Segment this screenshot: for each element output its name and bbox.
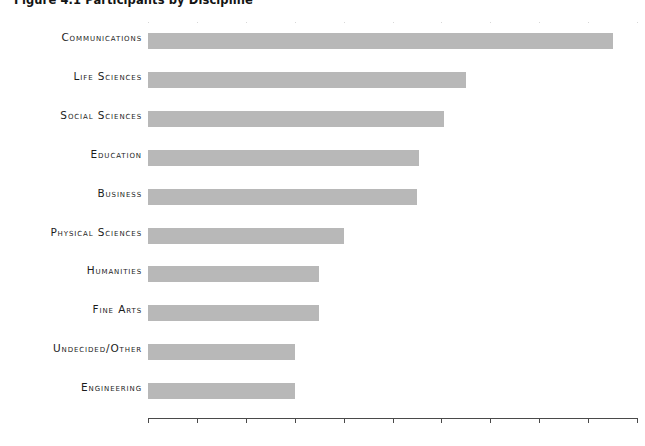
axis-tick-mark bbox=[539, 418, 540, 423]
category-label: Fine Arts bbox=[0, 303, 142, 315]
bar bbox=[148, 189, 417, 205]
bar bbox=[148, 111, 444, 127]
bar-row: Education bbox=[0, 150, 645, 166]
axis-tick-mark bbox=[246, 418, 247, 423]
category-label: Physical Sciences bbox=[0, 226, 142, 238]
category-label: Humanities bbox=[0, 264, 142, 276]
bar-row: Communications bbox=[0, 33, 645, 49]
bar-row: Engineering bbox=[0, 383, 645, 399]
category-label: Life Sciences bbox=[0, 70, 142, 82]
axis-tick-mark bbox=[588, 418, 589, 423]
bar-row: Life Sciences bbox=[0, 72, 645, 88]
bar-row: Physical Sciences bbox=[0, 228, 645, 244]
axis-tick-mark bbox=[148, 418, 149, 423]
bar bbox=[148, 266, 319, 282]
bar-row: Fine Arts bbox=[0, 305, 645, 321]
bar bbox=[148, 72, 466, 88]
axis-tick-mark bbox=[441, 418, 442, 423]
bar bbox=[148, 228, 344, 244]
axis-tick-mark bbox=[197, 418, 198, 423]
bar-row: Humanities bbox=[0, 266, 645, 282]
category-label: Social Sciences bbox=[0, 109, 142, 121]
axis-tick-mark bbox=[490, 418, 491, 423]
bar bbox=[148, 344, 295, 360]
bar-rows: CommunicationsLife SciencesSocial Scienc… bbox=[0, 22, 645, 418]
bar bbox=[148, 33, 613, 49]
bar bbox=[148, 383, 295, 399]
category-label: Undecided/Other bbox=[0, 342, 142, 354]
bar-row: Undecided/Other bbox=[0, 344, 645, 360]
bar-row: Social Sciences bbox=[0, 111, 645, 127]
axis-tick-mark bbox=[295, 418, 296, 423]
category-label: Communications bbox=[0, 31, 142, 43]
category-label: Education bbox=[0, 148, 142, 160]
bar-chart-plot-area: CommunicationsLife SciencesSocial Scienc… bbox=[0, 22, 645, 424]
bar-row: Business bbox=[0, 189, 645, 205]
bar bbox=[148, 305, 319, 321]
bar bbox=[148, 150, 419, 166]
category-label: Business bbox=[0, 187, 142, 199]
axis-tick-mark bbox=[393, 418, 394, 423]
category-label: Engineering bbox=[0, 381, 142, 393]
axis-tick-mark bbox=[344, 418, 345, 423]
chart-title: Figure 4.1 Participants by Discipline bbox=[14, 0, 253, 7]
axis-tick-mark bbox=[637, 418, 638, 423]
